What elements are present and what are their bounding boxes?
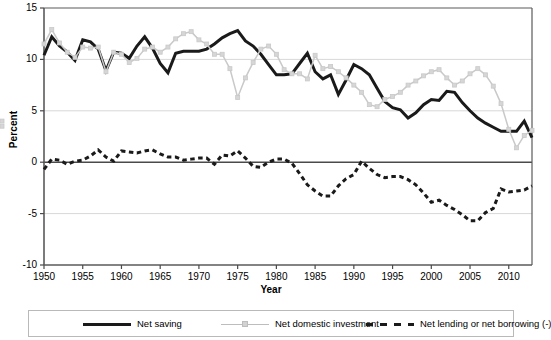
x-tick-label-2000: 2000: [411, 271, 451, 282]
x-tick-label-1995: 1995: [373, 271, 413, 282]
x-tick-label-1975: 1975: [218, 271, 258, 282]
series-marker-1-4: [73, 55, 77, 59]
y-tick-label-15: 15: [3, 2, 37, 13]
x-tick-label-1990: 1990: [334, 271, 374, 282]
series-line-1: [44, 30, 532, 148]
series-marker-1-49: [422, 74, 426, 78]
y-tick-label-0: 0: [3, 156, 37, 167]
series-marker-1-16: [166, 45, 170, 49]
series-marker-1-54: [460, 79, 464, 83]
series-marker-1-25: [236, 95, 240, 99]
series-marker-1-21: [205, 42, 209, 46]
series-marker-1-63: [530, 128, 534, 132]
series-marker-1-20: [197, 38, 201, 42]
series-marker-1-11: [127, 60, 131, 64]
series-marker-1-53: [453, 83, 457, 87]
series-marker-1-44: [383, 97, 387, 101]
series-marker-1-17: [174, 37, 178, 41]
series-marker-1-62: [522, 133, 526, 137]
series-marker-1-10: [119, 52, 123, 56]
series-marker-1-0: [42, 42, 46, 46]
series-marker-1-50: [429, 70, 433, 74]
series-marker-1-42: [367, 103, 371, 107]
legend-label-0: Net saving: [137, 318, 182, 329]
series-marker-1-1: [50, 28, 54, 32]
x-tick-label-1955: 1955: [63, 271, 103, 282]
x-tick-label-2010: 2010: [489, 271, 529, 282]
series-marker-1-2: [57, 41, 61, 45]
x-tick-label-1980: 1980: [256, 271, 296, 282]
legend-marker: [242, 321, 248, 327]
x-tick-label-2005: 2005: [450, 271, 490, 282]
series-marker-1-36: [321, 67, 325, 71]
legend-row: Net savingNet domestic investmentNet len…: [29, 311, 513, 336]
legend-line: [83, 323, 131, 326]
series-marker-1-59: [499, 102, 503, 106]
series-marker-1-9: [112, 50, 116, 54]
gray-line-marker-icon: [219, 318, 271, 330]
x-tick-label-1950: 1950: [24, 271, 64, 282]
series-marker-1-6: [88, 46, 92, 50]
series-marker-1-13: [143, 47, 147, 51]
legend-label-2: Net lending or net borrowing (-): [420, 318, 551, 329]
series-marker-1-28: [259, 47, 263, 51]
series-marker-1-40: [352, 83, 356, 87]
series-marker-1-23: [220, 52, 224, 56]
series-marker-1-65: [0, 119, 4, 123]
series-marker-1-58: [491, 84, 495, 88]
chart-legend: Net savingNet domestic investmentNet len…: [28, 310, 514, 337]
series-marker-1-3: [65, 50, 69, 54]
x-tick-label-1960: 1960: [101, 271, 141, 282]
series-marker-1-56: [476, 67, 480, 71]
legend-entry-1: Net domestic investment: [219, 311, 379, 336]
series-marker-1-19: [189, 30, 193, 34]
series-marker-1-46: [398, 90, 402, 94]
x-tick-label-1985: 1985: [295, 271, 335, 282]
legend-entry-2: Net lending or net borrowing (-): [364, 311, 551, 336]
chart-plot-area: [0, 0, 542, 300]
x-tick-label-1970: 1970: [179, 271, 219, 282]
series-marker-1-22: [212, 52, 216, 56]
series-marker-1-60: [507, 127, 511, 131]
series-marker-1-64: [0, 124, 4, 128]
series-marker-1-61: [515, 146, 519, 150]
legend-entry-0: Net saving: [81, 311, 182, 336]
series-marker-1-7: [96, 45, 100, 49]
series-line-2: [44, 150, 532, 221]
y-tick-label--5: -5: [3, 208, 37, 219]
series-marker-1-12: [135, 56, 139, 60]
y-tick-label--10: -10: [3, 259, 37, 270]
x-axis-title: Year: [0, 284, 542, 295]
series-marker-1-24: [228, 67, 232, 71]
series-marker-1-37: [329, 65, 333, 69]
series-marker-1-35: [313, 53, 317, 57]
series-marker-1-43: [375, 105, 379, 109]
series-marker-1-55: [468, 72, 472, 76]
series-line-0: [44, 31, 532, 138]
x-tick-label-1965: 1965: [140, 271, 180, 282]
dashed-black-line-icon: [364, 318, 416, 330]
series-marker-1-8: [104, 70, 108, 74]
series-marker-1-14: [150, 45, 154, 49]
legend-line: [366, 323, 414, 326]
series-marker-1-31: [282, 68, 286, 72]
series-marker-1-5: [81, 45, 85, 49]
series-marker-1-52: [445, 76, 449, 80]
series-marker-1-51: [437, 68, 441, 72]
y-tick-label-5: 5: [3, 105, 37, 116]
series-marker-1-57: [484, 73, 488, 77]
series-marker-1-38: [336, 70, 340, 74]
series-marker-1-39: [344, 76, 348, 80]
series-marker-1-15: [158, 50, 162, 54]
series-marker-1-26: [243, 76, 247, 80]
series-marker-1-32: [290, 72, 294, 76]
series-marker-1-47: [406, 83, 410, 87]
solid-black-line-icon: [81, 318, 133, 330]
series-marker-1-41: [360, 90, 364, 94]
series-marker-1-45: [391, 94, 395, 98]
chart-figure: Percent Year 151050-5-101950195519601965…: [0, 0, 542, 300]
series-marker-1-27: [251, 60, 255, 64]
series-marker-1-18: [181, 32, 185, 36]
series-marker-1-48: [414, 79, 418, 83]
